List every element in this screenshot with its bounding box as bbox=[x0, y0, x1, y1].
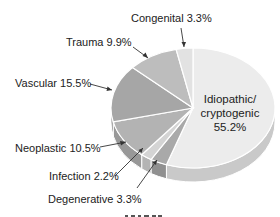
label-idiopathic-value: 55.2% bbox=[214, 121, 247, 133]
label-degenerative: Degenerative 3.3% bbox=[48, 193, 142, 205]
label-idiopathic-line2: cryptogenic bbox=[201, 107, 260, 119]
label-neoplastic: Neoplastic 10.5% bbox=[15, 142, 101, 154]
label-infection: Infection 2.2% bbox=[49, 170, 119, 182]
label-vascular: Vascular 15.5% bbox=[15, 77, 91, 89]
pie-chart: Congenital 3.3% Trauma 9.9% Vascular 15.… bbox=[0, 0, 280, 217]
label-congenital: Congenital 3.3% bbox=[131, 12, 212, 24]
label-idiopathic-line1: Idiopathic/ bbox=[204, 93, 257, 105]
label-trauma: Trauma 9.9% bbox=[66, 36, 132, 48]
